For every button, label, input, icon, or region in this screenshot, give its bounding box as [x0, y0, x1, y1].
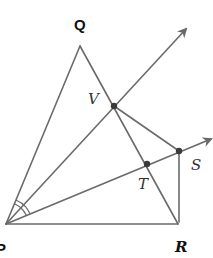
label-R: R	[174, 238, 187, 256]
segment-VS	[114, 106, 179, 151]
point-V	[111, 103, 117, 109]
label-V: V	[88, 90, 101, 108]
label-P: P	[0, 240, 6, 257]
label-T: T	[138, 175, 149, 193]
label-S: S	[191, 156, 201, 174]
ray-PV	[6, 29, 186, 224]
point-S	[176, 148, 182, 154]
geometry-diagram: Q V S T P R	[0, 0, 213, 258]
label-Q: Q	[74, 16, 86, 33]
point-T	[144, 161, 150, 167]
segment-QR	[80, 46, 178, 224]
